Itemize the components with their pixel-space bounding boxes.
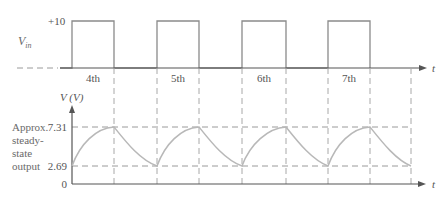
steady-state-annotation-line3: state (12, 147, 32, 159)
vin-label-sub: in (25, 41, 31, 50)
output-time-axis-label: t (432, 178, 436, 190)
y-tick-2-69: 2.69 (48, 160, 68, 172)
pulse-label-4th: 4th (86, 72, 101, 84)
output-y-axis-arrow-icon (69, 105, 75, 113)
pulse-label-7th: 7th (342, 72, 357, 84)
vin-label: Vin (18, 34, 32, 50)
input-time-axis-label: t (432, 62, 436, 74)
output-plot: t V (V) 7.31 2.69 0 Approx. steady- stat… (12, 91, 436, 190)
y-tick-0: 0 (62, 178, 68, 190)
pulse-label-5th: 5th (171, 72, 186, 84)
input-plot: t +10 Vin 4th 5th 6th 7th (17, 15, 436, 84)
amplitude-label: +10 (48, 15, 66, 27)
input-time-axis-arrow-icon (419, 65, 427, 71)
input-square-wave (60, 21, 370, 68)
output-time-axis-arrow-icon (418, 181, 426, 187)
vertical-guides (114, 68, 411, 184)
output-y-axis-label: V (V) (60, 91, 84, 104)
waveform-diagram: t +10 Vin 4th 5th 6th 7th t (0, 0, 444, 199)
y-tick-7-31: 7.31 (48, 121, 67, 133)
steady-state-annotation-line2: steady- (12, 134, 44, 146)
steady-state-annotation-line4: output (12, 160, 40, 172)
pulse-label-6th: 6th (257, 72, 272, 84)
steady-state-annotation-line1: Approx. (12, 121, 49, 133)
